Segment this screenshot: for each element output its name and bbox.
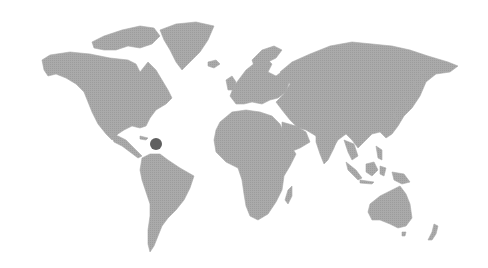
world-map: [0, 0, 488, 268]
continent-australia: [368, 186, 412, 228]
iceland: [208, 60, 220, 68]
borneo: [366, 162, 378, 176]
sumatra: [346, 162, 362, 180]
new-zealand: [428, 224, 438, 240]
british-isles: [226, 76, 236, 90]
java: [360, 180, 374, 184]
caribbean-islands: [140, 136, 148, 140]
madagascar: [285, 186, 292, 204]
sulawesi: [380, 166, 386, 176]
central-america: [110, 134, 142, 158]
greenland: [160, 22, 214, 70]
continent-south-america: [140, 154, 194, 252]
tasmania: [402, 232, 406, 236]
new-guinea: [392, 172, 410, 184]
world-map-svg: [0, 0, 488, 268]
philippines: [376, 146, 382, 160]
arctic-islands: [92, 26, 160, 50]
continent-north-america: [42, 52, 172, 140]
india: [316, 130, 338, 164]
location-marker[interactable]: [150, 138, 162, 150]
